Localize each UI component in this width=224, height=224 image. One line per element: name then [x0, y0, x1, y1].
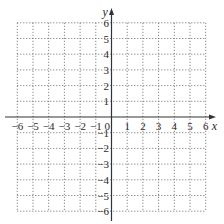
x-tick-label: −4: [43, 120, 55, 132]
y-tick-label: 5: [104, 33, 110, 45]
y-tick-label: −2: [97, 142, 109, 154]
x-tick-label: 5: [187, 120, 193, 132]
coordinate-plane: −6−5−4−3−2−1123456 −6−5−4−3−2−1123456 x …: [0, 0, 224, 224]
y-tick-label: 1: [104, 95, 110, 107]
y-tick-label: −4: [97, 174, 109, 186]
x-tick-label: 4: [172, 120, 178, 132]
y-axis-arrow-icon: [109, 8, 114, 15]
y-tick-label: −3: [97, 158, 109, 170]
x-tick-label: 1: [124, 120, 130, 132]
y-tick-label: 2: [104, 80, 110, 92]
origin-label: 0: [105, 120, 111, 132]
y-tick-label: −6: [97, 205, 109, 217]
x-tick-label: −6: [11, 120, 23, 132]
x-tick-label: 2: [140, 120, 146, 132]
x-axis-label: x: [211, 119, 218, 133]
x-tick-label: −2: [74, 120, 86, 132]
x-tick-labels: −6−5−4−3−2−1123456: [11, 120, 209, 132]
y-tick-label: −5: [97, 190, 109, 202]
x-tick-label: −3: [59, 120, 71, 132]
y-tick-label: 4: [104, 48, 110, 60]
x-tick-label: 3: [156, 120, 162, 132]
x-tick-label: −5: [27, 120, 39, 132]
axes: [5, 8, 216, 221]
y-tick-label: 3: [104, 64, 110, 76]
y-axis-label: y: [102, 5, 109, 19]
x-tick-label: 6: [203, 120, 209, 132]
